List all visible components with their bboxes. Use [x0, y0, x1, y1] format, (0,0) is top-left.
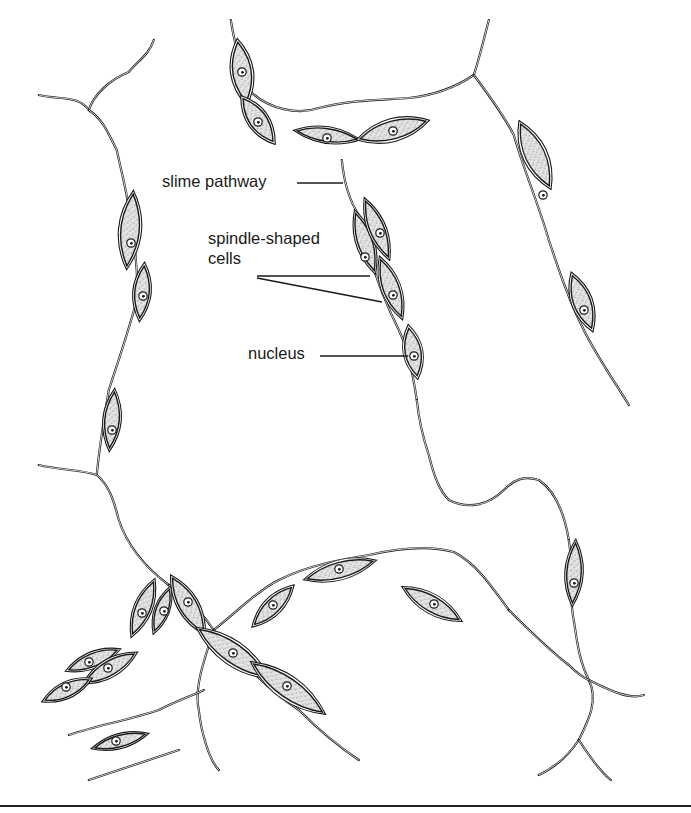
- nucleolus: [583, 309, 586, 312]
- slime-pathway-strand: [69, 690, 204, 735]
- nucleolus: [433, 603, 436, 606]
- slime-pathway-strand: [89, 110, 129, 210]
- nucleolus: [187, 601, 190, 604]
- label-slime-pathway: slime pathway: [162, 171, 267, 191]
- label-spindle-shaped: spindle-shaped: [208, 228, 320, 248]
- nucleolus: [573, 582, 576, 585]
- bottom-rule-divider: [0, 805, 691, 807]
- nucleolus: [88, 661, 91, 664]
- nucleolus: [107, 667, 110, 670]
- nucleolus: [65, 686, 68, 689]
- nucleolus: [272, 604, 275, 607]
- nucleolus: [542, 194, 545, 197]
- slime-mold-illustration: [0, 0, 691, 813]
- slime-pathway-strand: [474, 75, 629, 405]
- nucleolus: [286, 685, 289, 688]
- nucleolus: [130, 242, 133, 245]
- spindle-cell: [563, 539, 585, 608]
- nucleolus: [163, 610, 166, 613]
- slime-pathway-strand: [589, 680, 644, 696]
- slime-pathway-strand: [417, 400, 569, 540]
- slime-pathway-strand: [231, 20, 474, 111]
- nucleolus: [338, 568, 341, 571]
- nucleolus: [241, 71, 244, 74]
- nucleolus: [392, 130, 395, 133]
- label-cells: cells: [208, 248, 241, 268]
- nucleolus: [111, 429, 114, 432]
- spindle-cells-group: [38, 37, 603, 756]
- slime-pathway-strand: [579, 740, 611, 780]
- nucleolus: [141, 612, 144, 615]
- nucleolus: [379, 232, 382, 235]
- slime-pathway-strand: [539, 740, 579, 775]
- nucleolus: [413, 355, 416, 358]
- leader-spindle-shaped-cells: [257, 278, 382, 302]
- nucleolus: [142, 295, 145, 298]
- slime-pathway-strand: [39, 40, 154, 110]
- nucleolus: [232, 652, 235, 655]
- spindle-cell: [100, 387, 124, 452]
- label-nucleus: nucleus: [248, 343, 305, 363]
- nucleolus: [392, 294, 395, 297]
- nucleolus: [115, 740, 118, 743]
- spindle-cell: [508, 115, 563, 194]
- nucleolus: [364, 256, 367, 259]
- spindle-cell: [115, 189, 145, 271]
- nucleolus: [326, 137, 329, 140]
- nucleolus: [257, 121, 260, 124]
